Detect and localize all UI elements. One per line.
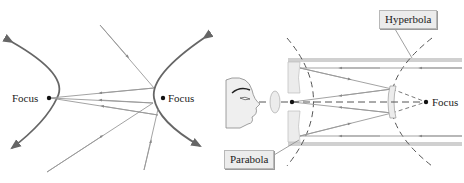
observer-face <box>226 78 260 128</box>
telescope-diagram: Focus <box>226 29 462 166</box>
virtual-ray-top <box>392 89 426 102</box>
telescope-focus-label: Focus <box>432 96 458 108</box>
left-focus-point <box>47 96 51 100</box>
parabola-callout: Parabola <box>224 150 274 169</box>
eye-focus-point <box>290 100 294 104</box>
primary-mirror-bottom <box>288 111 300 142</box>
right-focus-label: Focus <box>168 92 194 104</box>
virtual-ray-bottom <box>392 102 426 113</box>
hyperbola-leader-line <box>395 29 412 58</box>
hyperbola-reflection-diagram: Focus Focus <box>12 25 204 172</box>
left-focus-label: Focus <box>12 92 38 104</box>
eyepiece-lens <box>270 91 280 113</box>
tube-top-wall <box>288 58 462 62</box>
right-focus-point <box>161 96 165 100</box>
primary-mirror-top <box>288 62 300 93</box>
telescope-focus-point <box>424 100 428 104</box>
hyperbola-callout: Hyperbola <box>379 10 437 29</box>
tube-bottom-wall <box>288 142 462 146</box>
